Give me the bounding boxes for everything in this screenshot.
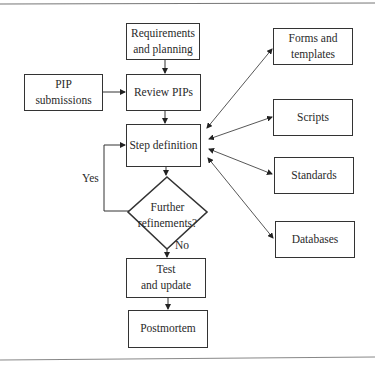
edge-label-yes: Yes xyxy=(82,172,99,184)
arrow-step-databases xyxy=(208,158,273,238)
node-review-pips: Review PIPs xyxy=(126,74,201,111)
node-forms-templates: Forms and templates xyxy=(273,28,353,65)
node-pip-submissions: PIP submissions xyxy=(24,74,103,111)
node-standards: Standards xyxy=(274,157,354,194)
top-rule xyxy=(0,3,375,4)
edge-label-no: No xyxy=(175,239,189,251)
node-scripts: Scripts xyxy=(273,99,353,136)
node-decision-label: Further refinements? xyxy=(128,200,207,231)
node-step-definition: Step definition xyxy=(126,124,201,167)
arrow-step-scripts xyxy=(209,117,272,139)
arrow-step-forms xyxy=(207,49,272,128)
node-postmortem: Postmortem xyxy=(128,310,208,348)
bottom-rule xyxy=(0,357,375,360)
node-databases: Databases xyxy=(275,221,355,258)
node-test-update: Test and update xyxy=(126,258,206,298)
node-requirements: Requirements and planning xyxy=(126,23,200,60)
